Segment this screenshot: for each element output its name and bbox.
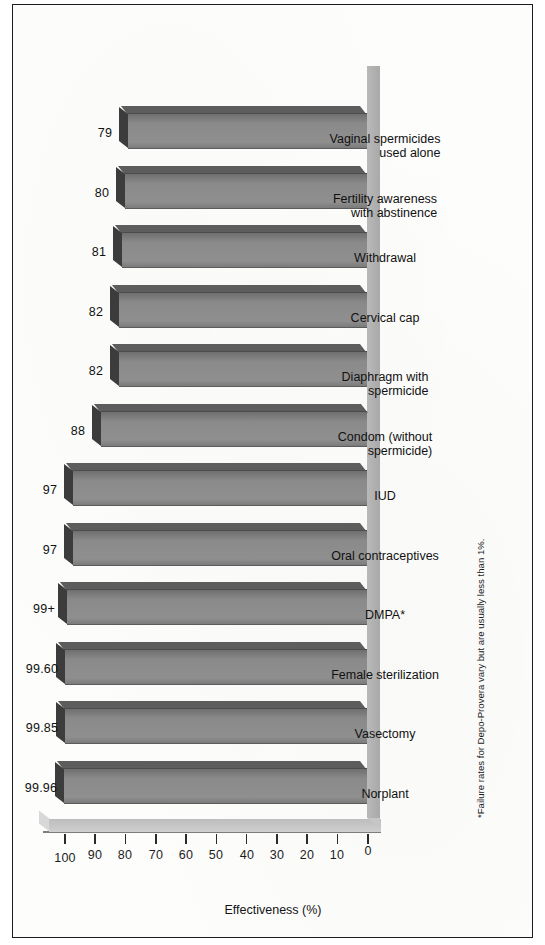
- category-label-line: Condom (without: [337, 430, 432, 444]
- category-label-line: Female sterilization: [331, 668, 439, 682]
- category-label-line: used alone: [329, 147, 440, 161]
- category-label-line: DMPA*: [364, 609, 404, 623]
- bar-top-face: [91, 405, 100, 446]
- category-label-line: Withdrawal: [354, 252, 416, 266]
- axis-tick: 20: [306, 834, 308, 844]
- bar-top-face: [112, 226, 121, 267]
- axis-tick: 10: [336, 834, 338, 844]
- bar: [64, 709, 366, 745]
- bar-value-label: 97: [43, 484, 57, 498]
- bar-value-label: 99.60: [26, 662, 58, 676]
- bar: [118, 352, 366, 388]
- axis-tick-label: 40: [239, 848, 253, 862]
- bar-value-label: 97: [43, 543, 57, 557]
- category-label-line: Norplant: [361, 787, 408, 801]
- category-label: DMPA*: [364, 609, 404, 623]
- bar: [65, 649, 367, 685]
- axis-tick-label: 90: [88, 848, 102, 862]
- axis-tick-label: 100: [54, 852, 75, 866]
- category-label-line: Diaphragm with: [341, 371, 428, 385]
- category-label: Condom (withoutspermicide): [337, 430, 432, 458]
- category-label-line: Vasectomy: [354, 728, 415, 742]
- category-label-line: IUD: [374, 490, 396, 504]
- bar-top-face: [115, 167, 124, 208]
- category-label-line: Oral contraceptives: [331, 549, 439, 563]
- bar-top-face: [118, 107, 127, 148]
- bar-top-face: [109, 345, 118, 386]
- category-label: Diaphragm withspermicide: [341, 371, 428, 399]
- bar-top-face: [64, 524, 73, 565]
- bar-value-label: 99.96: [25, 781, 57, 795]
- bar-column: 99.96: [64, 766, 367, 804]
- bar-value-label: 82: [88, 305, 102, 319]
- bar: [73, 471, 367, 507]
- bar: [124, 173, 366, 209]
- category-label-line: Fertility awareness: [332, 192, 436, 206]
- axis-tick-label: 80: [118, 848, 132, 862]
- axis-tick: 40: [245, 834, 247, 844]
- bar-value-label: 99.85: [25, 722, 57, 736]
- category-label: Female sterilization: [331, 668, 439, 682]
- bar-value-label: 79: [97, 127, 111, 141]
- axis-tick: 90: [94, 834, 96, 844]
- category-label-line: Vaginal spermicides: [329, 133, 440, 147]
- category-label-line: Cervical cap: [350, 311, 419, 325]
- bar-column: 82: [118, 350, 366, 388]
- category-label: Vaginal spermicidesused alone: [329, 133, 440, 161]
- axis-tick: 0: [367, 834, 369, 844]
- category-label: Vasectomy: [354, 728, 415, 742]
- bar-value-label: 81: [91, 246, 105, 260]
- axis-tick: 50: [215, 834, 217, 844]
- bar-top-face: [109, 286, 118, 327]
- bar-column: 99.60: [65, 647, 367, 685]
- page-frame: 0102030405060708090100 Effectiveness (%)…: [12, 4, 533, 938]
- category-label: Withdrawal: [354, 252, 416, 266]
- axis-tick-label: 60: [178, 848, 192, 862]
- bar: [67, 590, 367, 626]
- axis-tick-label: 30: [269, 848, 283, 862]
- bar-column: 97: [73, 528, 367, 566]
- bar-value-label: 80: [94, 186, 108, 200]
- bar: [121, 233, 366, 269]
- axis-tick: 30: [276, 834, 278, 844]
- bar-column: 99.85: [64, 707, 366, 745]
- bar-column: 99+: [67, 588, 367, 626]
- axis-tick: 70: [155, 834, 157, 844]
- bar: [64, 768, 367, 804]
- bar: [100, 411, 367, 447]
- bar-series: 99.9699.8599.6099+9797888282818079: [23, 76, 380, 818]
- axis-tick-label: 50: [209, 848, 223, 862]
- bar-chart: 0102030405060708090100 Effectiveness (%)…: [23, 6, 523, 936]
- axis-tick: 100: [64, 834, 66, 844]
- value-axis-title: Effectiveness (%): [224, 903, 321, 917]
- bar-column: 97: [73, 469, 367, 507]
- bar-column: 81: [121, 231, 366, 269]
- axis-tick-label: 10: [330, 848, 344, 862]
- rotated-chart-stage: 0102030405060708090100 Effectiveness (%)…: [23, 6, 523, 936]
- category-label: Oral contraceptives: [331, 549, 439, 563]
- axis-wall: [49, 819, 381, 832]
- category-label: Norplant: [361, 787, 408, 801]
- category-label-line: spermicide: [341, 385, 428, 399]
- axis-tick-label: 70: [148, 848, 162, 862]
- axis-tick-label: 0: [364, 845, 371, 859]
- axis-tick-label: 20: [300, 848, 314, 862]
- bar-top-face: [64, 464, 73, 505]
- axis-tick: 80: [124, 834, 126, 844]
- bar-column: 82: [118, 290, 366, 328]
- chart-footnote: *Failure rates for Depo-Provera vary but…: [475, 539, 486, 818]
- bar-value-label: 99+: [33, 603, 55, 617]
- category-label: Fertility awarenesswith abstinence: [332, 192, 436, 220]
- category-label-line: with abstinence: [332, 206, 436, 220]
- bar: [118, 292, 366, 328]
- bar-value-label: 82: [88, 365, 102, 379]
- bar-column: 88: [100, 409, 367, 447]
- bar-value-label: 88: [70, 424, 84, 438]
- bar: [73, 530, 367, 566]
- category-label-line: spermicide): [337, 444, 432, 458]
- bar-column: 80: [124, 171, 366, 209]
- bar-top-face: [58, 583, 67, 624]
- category-label: IUD: [374, 490, 396, 504]
- category-label: Cervical cap: [350, 311, 419, 325]
- axis-tick: 60: [185, 834, 187, 844]
